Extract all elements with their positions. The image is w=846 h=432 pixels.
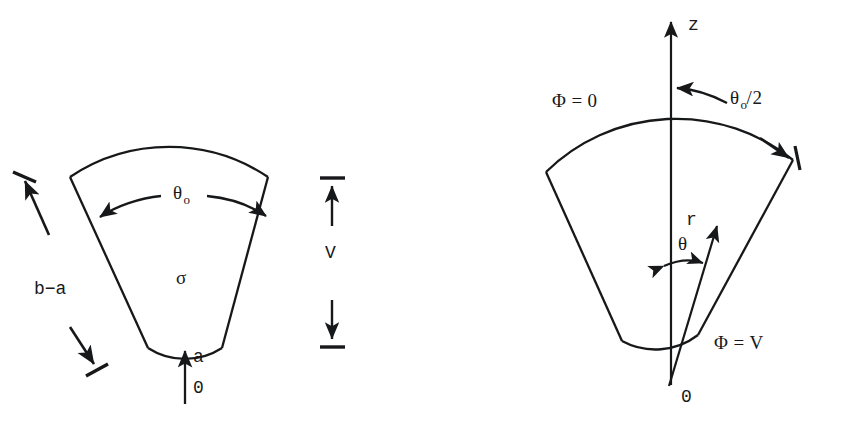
figure-canvas: θo σ b−a a 0 V Φ=0 z θo/2 r θ Φ=V 0 bbox=[0, 0, 846, 432]
left-sigma-label: σ bbox=[176, 268, 187, 287]
left-wedge-outline bbox=[70, 147, 268, 359]
right-half-angle-arc-arrow bbox=[677, 88, 727, 103]
left-origin-label: 0 bbox=[193, 379, 204, 397]
right-half-angle-edge-arrow bbox=[760, 138, 800, 170]
right-phi-v-equation: Φ=V bbox=[714, 333, 764, 352]
equals-glyph: = bbox=[566, 90, 587, 111]
diagram-vector-layer bbox=[0, 0, 846, 432]
theta-glyph: θ bbox=[173, 182, 183, 203]
half-angle-divisor: /2 bbox=[747, 87, 763, 108]
left-thickness-arrow-lower bbox=[70, 327, 108, 376]
left-thickness-label: b−a bbox=[34, 280, 66, 298]
left-thickness-arrow-upper bbox=[13, 172, 49, 235]
left-theta-zero-label: θo bbox=[173, 183, 190, 202]
right-theta-arc bbox=[664, 261, 703, 266]
right-half-angle-label: θo/2 bbox=[730, 88, 762, 107]
theta-subscript: o bbox=[184, 192, 191, 207]
phi-zero-value: 0 bbox=[588, 90, 598, 111]
left-inner-radius-label: a bbox=[193, 348, 204, 366]
phi-v-value: V bbox=[750, 332, 764, 353]
right-phi-zero-equation: Φ=0 bbox=[552, 91, 598, 110]
phi-v-glyph: Φ bbox=[714, 332, 728, 353]
right-radius-vector bbox=[669, 226, 717, 386]
right-wedge-outline bbox=[546, 119, 793, 350]
equals-glyph-2: = bbox=[728, 332, 749, 353]
right-radius-vector-label: r bbox=[686, 211, 697, 229]
right-origin-label: 0 bbox=[681, 388, 692, 406]
left-voltage-label: V bbox=[325, 244, 336, 262]
right-polar-angle-label: θ bbox=[678, 234, 688, 253]
half-angle-subscript: o bbox=[741, 97, 748, 112]
half-angle-theta-glyph: θ bbox=[730, 87, 740, 108]
phi-glyph: Φ bbox=[552, 90, 566, 111]
right-z-axis-label: z bbox=[688, 16, 699, 34]
